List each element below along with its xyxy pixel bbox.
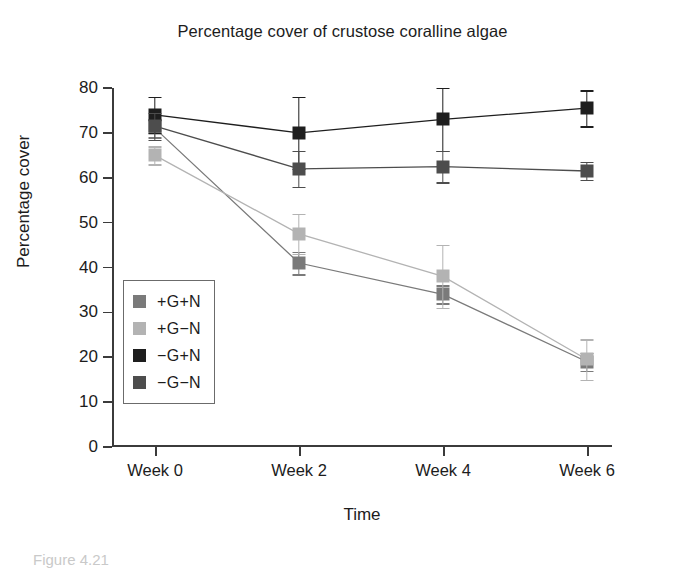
y-tick-label: 70 (79, 123, 98, 143)
y-tick (103, 446, 112, 448)
error-bar-cap (149, 146, 162, 147)
error-bar-cap (149, 97, 162, 98)
data-point-marker (293, 162, 306, 175)
y-tick (103, 267, 112, 269)
error-bar-cap (437, 308, 450, 309)
y-axis-title: Percentage cover (14, 135, 34, 268)
legend-swatch (133, 322, 146, 335)
legend-item: −G+N (133, 342, 201, 369)
data-point-marker (581, 353, 594, 366)
data-point-marker (437, 113, 450, 126)
error-bar-cap (437, 88, 450, 89)
x-axis-title: Time (112, 505, 612, 525)
error-bar-cap (149, 113, 162, 114)
data-point-marker (581, 165, 594, 178)
error-bar-cap (293, 97, 306, 98)
y-tick-label: 10 (79, 392, 98, 412)
y-tick-label: 80 (79, 78, 98, 98)
data-point-marker (293, 126, 306, 139)
error-bar-cap (581, 380, 594, 381)
data-point-marker (293, 227, 306, 240)
legend: +G+N+G−N−G+N−G−N (123, 280, 215, 404)
legend-item: +G−N (133, 315, 201, 342)
y-tick (103, 356, 112, 358)
error-bar-cap (581, 180, 594, 181)
x-tick-label: Week 6 (559, 461, 615, 480)
y-tick (103, 177, 112, 179)
legend-label: −G−N (157, 374, 201, 392)
x-tick (299, 447, 301, 456)
legend-swatch (133, 295, 146, 308)
legend-swatch (133, 349, 146, 362)
error-bar-cap (149, 164, 162, 165)
error-bar-cap (437, 151, 450, 152)
y-tick-label: 50 (79, 213, 98, 233)
series-line (155, 108, 587, 133)
y-tick-label: 30 (79, 302, 98, 322)
chart-title: Percentage cover of crustose coralline a… (0, 22, 685, 41)
y-tick (103, 312, 112, 314)
legend-label: −G+N (157, 347, 201, 365)
data-point-marker (581, 102, 594, 115)
error-bar-cap (581, 126, 594, 127)
error-bar-cap (581, 162, 594, 163)
legend-item: +G+N (133, 288, 201, 315)
series-line (155, 155, 587, 359)
error-bar-cap (581, 339, 594, 340)
legend-swatch (133, 376, 146, 389)
series-line (155, 126, 587, 171)
y-tick-label: 20 (79, 347, 98, 367)
figure-caption: Figure 4.21 (33, 551, 109, 568)
error-bar-cap (293, 254, 306, 255)
y-tick-label: 0 (89, 437, 98, 457)
data-point-marker (437, 270, 450, 283)
figure-container: Percentage cover of crustose coralline a… (0, 0, 685, 570)
error-bar-cap (437, 182, 450, 183)
y-tick (103, 401, 112, 403)
legend-item: −G−N (133, 369, 201, 396)
error-bar-cap (437, 245, 450, 246)
error-bar-cap (581, 90, 594, 91)
y-tick (103, 132, 112, 134)
legend-label: +G+N (157, 293, 201, 311)
data-point-marker (149, 149, 162, 162)
y-tick-label: 40 (79, 258, 98, 278)
x-tick (155, 447, 157, 456)
x-tick (587, 447, 589, 456)
error-bar-cap (293, 274, 306, 275)
x-tick-label: Week 4 (415, 461, 471, 480)
y-tick-label: 60 (79, 168, 98, 188)
error-bar-cap (149, 140, 162, 141)
error-bar-cap (293, 214, 306, 215)
x-tick-label: Week 0 (127, 461, 183, 480)
series-line (155, 128, 587, 361)
data-point-marker (437, 160, 450, 173)
error-bar-cap (293, 187, 306, 188)
x-tick (443, 447, 445, 456)
x-tick-label: Week 2 (271, 461, 327, 480)
data-point-marker (293, 257, 306, 270)
y-tick (103, 87, 112, 89)
error-bar-cap (293, 151, 306, 152)
y-tick (103, 222, 112, 224)
data-point-marker (149, 120, 162, 133)
legend-label: +G−N (157, 320, 201, 338)
